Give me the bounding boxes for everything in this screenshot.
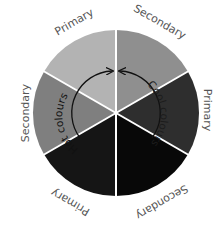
label-right: Primary [201, 89, 214, 132]
colour-wheel: Hot colours Cool colours Primary Seconda… [0, 0, 220, 226]
label-top-left: Primary [53, 5, 97, 38]
label-bottom-left: Primary [48, 186, 92, 219]
label-left: Secondary [19, 83, 32, 142]
